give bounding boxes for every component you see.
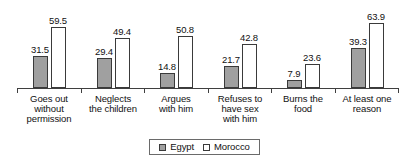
bar-morocco[interactable] [51, 27, 66, 88]
bar-morocco[interactable] [115, 38, 130, 88]
bar-morocco[interactable] [369, 23, 384, 88]
axis-tick [17, 88, 18, 93]
value-label-egypt: 21.7 [218, 55, 244, 65]
bar-group-burns-the-food: 7.9 23.6 [271, 0, 335, 88]
bar-group-neglects-the-children: 29.4 49.4 [81, 0, 145, 88]
category-label-line: permission [13, 114, 85, 124]
category-label-line: with him [140, 104, 212, 114]
category-label-line: the children [77, 104, 149, 114]
bar-group-at-least-one-reason: 39.3 63.9 [335, 0, 399, 88]
value-label-morocco: 42.8 [236, 33, 262, 43]
category-label-line: reason [331, 104, 403, 114]
bar-morocco[interactable] [305, 64, 320, 88]
value-label-morocco: 23.6 [299, 53, 325, 63]
category-label-line: with him [204, 114, 276, 124]
axis-tick [81, 88, 82, 93]
bar-group-refuses-to-have-sex-with-him: 21.7 42.8 [208, 0, 272, 88]
bar-group-goes-out-without-permission: 31.5 59.5 [17, 0, 81, 88]
plot-area: 31.5 59.5 29.4 49.4 14.8 50.8 21.7 42.8 [0, 0, 416, 95]
bar-chart: 31.5 59.5 29.4 49.4 14.8 50.8 21.7 42.8 [0, 0, 416, 165]
value-label-morocco: 49.4 [109, 27, 135, 37]
value-label-morocco: 63.9 [363, 12, 389, 22]
bar-egypt[interactable] [351, 48, 366, 88]
legend-label-morocco: Morocco [214, 142, 250, 152]
axis-tick [144, 88, 145, 93]
axis-tick [208, 88, 209, 93]
value-label-egypt: 31.5 [27, 45, 53, 55]
value-label-egypt: 29.4 [91, 47, 117, 57]
bar-egypt[interactable] [224, 66, 239, 88]
category-label-goes-out-without-permission: Goes out without permission [13, 94, 85, 125]
bar-morocco[interactable] [242, 44, 257, 88]
category-label-burns-the-food: Burns the food [267, 94, 339, 114]
category-label-line: food [267, 104, 339, 114]
bar-egypt[interactable] [33, 56, 48, 88]
bar-group-argues-with-him: 14.8 50.8 [144, 0, 208, 88]
value-label-egypt: 14.8 [154, 62, 180, 72]
bar-egypt[interactable] [160, 73, 175, 88]
category-label-argues-with-him: Argues with him [140, 94, 212, 114]
morocco-swatch-icon [203, 144, 210, 151]
value-label-morocco: 59.5 [45, 16, 71, 26]
value-label-morocco: 50.8 [172, 25, 198, 35]
egypt-swatch-icon [159, 144, 166, 151]
legend-item-egypt[interactable]: Egypt [159, 142, 194, 152]
legend-label-egypt: Egypt [170, 142, 194, 152]
value-label-egypt: 7.9 [281, 69, 307, 79]
bar-egypt[interactable] [97, 58, 112, 88]
chart-legend: Egypt Morocco [149, 139, 260, 155]
value-label-egypt: 39.3 [345, 37, 371, 47]
legend-item-morocco[interactable]: Morocco [203, 142, 250, 152]
axis-tick [398, 88, 399, 93]
bar-egypt[interactable] [287, 80, 302, 88]
category-label-neglects-the-children: Neglects the children [77, 94, 149, 114]
axis-tick [335, 88, 336, 93]
bar-morocco[interactable] [178, 36, 193, 88]
category-label-at-least-one-reason: At least one reason [331, 94, 403, 114]
category-label-refuses-to-have-sex-with-him: Refuses to have sex with him [204, 94, 276, 125]
axis-tick [271, 88, 272, 93]
